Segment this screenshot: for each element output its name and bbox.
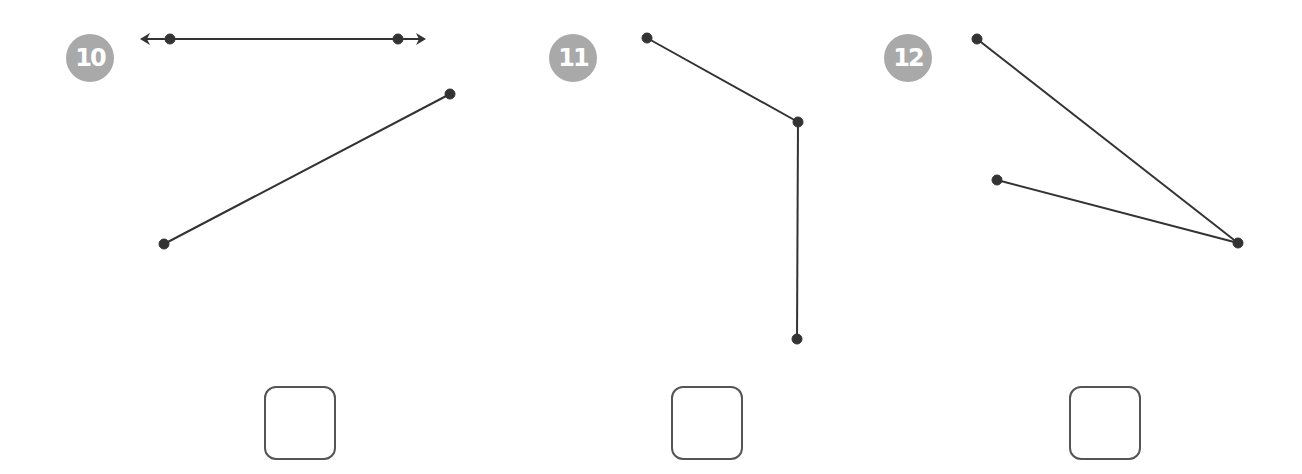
figure-10 <box>140 33 455 249</box>
answer-box-12[interactable] <box>1069 386 1141 460</box>
ray-12a <box>977 39 1238 243</box>
point-icon <box>159 239 169 249</box>
vertex-point-icon <box>793 117 803 127</box>
ray-11a <box>647 38 798 122</box>
figure-12 <box>972 34 1243 248</box>
vertex-point-icon <box>1233 238 1243 248</box>
point-icon <box>445 89 455 99</box>
point-icon <box>165 34 175 44</box>
point-icon <box>992 175 1002 185</box>
segment-10 <box>164 94 450 244</box>
ray-11b <box>797 122 798 339</box>
answer-box-10[interactable] <box>264 386 336 460</box>
figure-11 <box>642 33 803 344</box>
point-icon <box>393 34 403 44</box>
point-icon <box>972 34 982 44</box>
answer-box-11[interactable] <box>671 386 743 460</box>
point-icon <box>792 334 802 344</box>
ray-12b <box>997 180 1238 243</box>
point-icon <box>642 33 652 43</box>
